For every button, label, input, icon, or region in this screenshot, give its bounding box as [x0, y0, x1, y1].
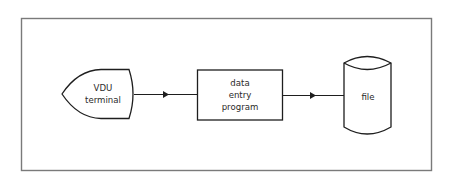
node-program-label-line2: entry [229, 90, 252, 100]
node-program-label-line3: program [222, 102, 259, 112]
node-vdu-terminal: VDU terminal [62, 70, 133, 119]
flow-diagram: VDU terminal data entry program file [0, 0, 454, 183]
display-shape [62, 70, 133, 119]
node-data-entry-program: data entry program [198, 70, 283, 120]
node-file-label: file [361, 92, 374, 102]
node-vdu-label-line1: VDU [94, 83, 113, 93]
arrowhead-icon [310, 92, 316, 99]
node-program-label-line1: data [230, 78, 249, 88]
edge-vdu-to-program [134, 91, 197, 98]
edge-program-to-file [283, 92, 344, 99]
node-vdu-label-line2: terminal [85, 95, 121, 105]
arrowhead-icon [163, 91, 169, 98]
node-file: file [344, 57, 391, 135]
